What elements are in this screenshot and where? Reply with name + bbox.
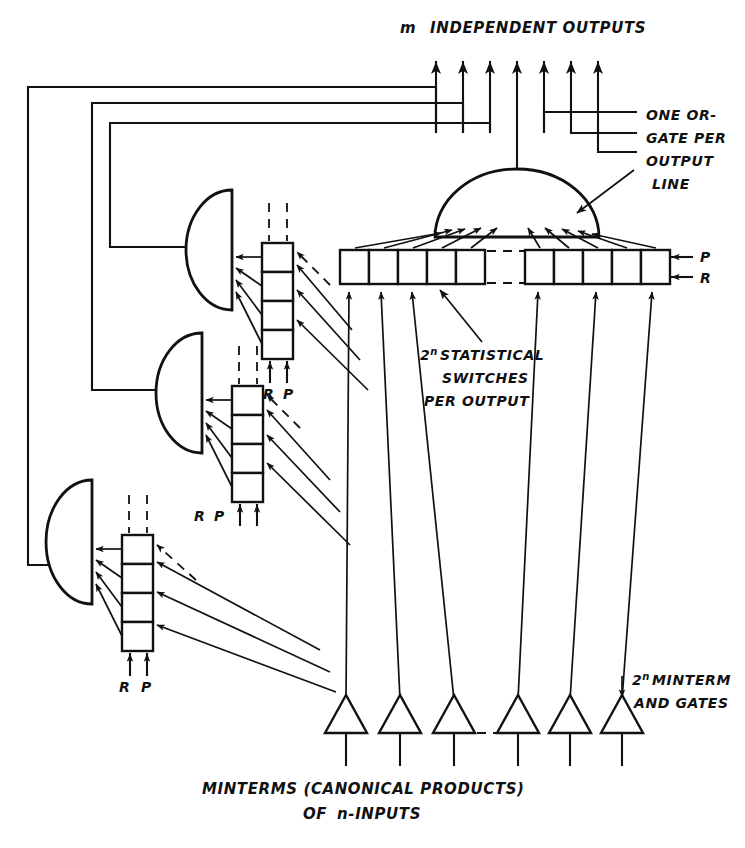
or-note-line-1: ONE OR-	[646, 107, 717, 123]
stack3-out-2	[96, 560, 122, 578]
switches-annotation-pointer	[440, 290, 482, 342]
caption-line-2-suffix: -INPUTS	[348, 805, 421, 823]
right-wire-2	[571, 132, 636, 133]
top-title-prefix: m	[400, 19, 416, 37]
minterm-note-sup: n	[642, 671, 650, 682]
switch-box-r1[interactable]	[525, 250, 554, 284]
stack3-in-3	[157, 592, 330, 672]
or-gate-annotation: ONE OR- GATE PER OUTPUT LINE	[646, 107, 726, 192]
caption-line-1: MINTERMS (CANONICAL PRODUCTS)	[202, 780, 525, 798]
bar-r-label: R	[700, 270, 711, 286]
and-gate-2[interactable]	[379, 695, 421, 733]
stack1-in-3	[297, 290, 360, 360]
caption-line-2-n: n	[337, 805, 348, 823]
minterm-wire-2	[381, 292, 400, 700]
right-wire-3	[598, 132, 636, 152]
switches-annotation: 2nSTATISTICAL SWITCHES PER OUTPUT	[420, 346, 544, 409]
stack2-in-4	[267, 463, 350, 545]
bottom-caption: MINTERMS (CANONICAL PRODUCTS) OF n-INPUT…	[202, 780, 525, 823]
stack3-box-2[interactable]	[122, 564, 153, 593]
stack3-r-label: R	[119, 679, 130, 695]
minterm-wire-5	[570, 292, 596, 700]
stack2-out-4	[206, 435, 232, 487]
or-gate-pointer-arrow	[577, 170, 634, 213]
stack1-p-label: P	[283, 386, 294, 402]
svg-text:2nMINTERM: 2nMINTERM	[632, 671, 731, 688]
or-gate-annotation-pointer	[577, 170, 634, 213]
minterm-wire-6	[622, 292, 652, 700]
and-gate-4[interactable]	[497, 695, 539, 733]
or-note-line-2: GATE PER	[646, 130, 726, 146]
or-note-line-4: LINE	[652, 176, 690, 192]
stack3-in-2	[157, 562, 320, 650]
stack2-out-3	[206, 423, 232, 458]
stack3-in-4	[157, 625, 336, 692]
minterm-wire-1	[346, 292, 349, 700]
or-gate-1-output-wire	[110, 123, 490, 247]
main-or-gate	[435, 169, 599, 237]
top-title-text: INDEPENDENT OUTPUTS	[430, 19, 646, 37]
main-switch-bar	[340, 250, 670, 284]
minterm-note-line-1: MINTERM	[652, 672, 731, 688]
switch-box-l3[interactable]	[398, 250, 427, 284]
and-gate-5[interactable]	[549, 695, 591, 733]
minterm-note-line-2: AND GATES	[633, 695, 729, 711]
switch-box-l2[interactable]	[369, 250, 398, 284]
stack3-box-3[interactable]	[122, 593, 153, 622]
minterm-annotation: 2nMINTERM AND GATES	[632, 671, 731, 711]
top-title: m INDEPENDENT OUTPUTS	[400, 19, 646, 37]
stack1-out-2	[236, 268, 262, 286]
stack1-box-4[interactable]	[262, 330, 293, 359]
bar-p-label: P	[700, 249, 711, 265]
and-gate-1[interactable]	[325, 695, 367, 733]
switch-box-r4[interactable]	[612, 250, 641, 284]
or-cluster-2: R P	[156, 333, 350, 545]
right-wire-1	[544, 112, 636, 132]
switch-box-r2[interactable]	[554, 250, 583, 284]
switch-box-r5[interactable]	[641, 250, 670, 284]
switch-box-l4[interactable]	[427, 250, 456, 284]
or-gate-1	[186, 190, 232, 310]
switches-note-line-3: PER OUTPUT	[424, 393, 530, 409]
switches-note-sup: n	[430, 346, 438, 357]
or-cluster-1: R P	[186, 190, 368, 402]
switches-note-line-1: STATISTICAL	[440, 347, 544, 363]
stack3-box-4[interactable]	[122, 622, 153, 651]
stack1-box-3[interactable]	[262, 301, 293, 330]
stack3-in-dashed	[157, 545, 196, 580]
stack3-box-1[interactable]	[122, 535, 153, 564]
figure-root: P R	[0, 0, 745, 848]
stack1-box-1[interactable]	[262, 243, 293, 272]
minterm-note-prefix: 2	[632, 672, 642, 688]
stack3-p-label: P	[141, 679, 152, 695]
or-fan-in-10	[592, 234, 656, 248]
or-fan-in-1	[355, 233, 441, 248]
caption-line-2-prefix: OF	[303, 805, 333, 823]
caption-line-2: OF n-INPUTS	[303, 805, 421, 823]
logic-diagram-canvas: P R	[0, 0, 745, 848]
stack3-out-4	[96, 584, 122, 636]
svg-text:m INDEPENDENT OUTPUTS: m INDEPENDENT OUTPUTS	[400, 19, 646, 37]
stack2-r-label: R	[194, 508, 205, 524]
switches-note-line-2: SWITCHES	[442, 370, 529, 386]
stack2-box-1[interactable]	[232, 386, 263, 415]
and-gate-3[interactable]	[433, 695, 475, 733]
stack1-out-4	[236, 292, 262, 344]
right-output-wires	[544, 112, 636, 152]
switch-box-l1[interactable]	[340, 250, 369, 284]
minterm-and-gate-row	[325, 695, 643, 765]
switch-box-r3[interactable]	[583, 250, 612, 284]
stack2-box-3[interactable]	[232, 444, 263, 473]
stack1-box-2[interactable]	[262, 272, 293, 301]
or-cluster-3: R P	[46, 480, 336, 695]
stack2-box-4[interactable]	[232, 473, 263, 502]
switches-note-prefix: 2	[420, 347, 430, 363]
stack3-out-3	[96, 572, 122, 607]
switches-pointer-arrow	[440, 290, 482, 342]
stack1-out-3	[236, 280, 262, 315]
stack2-p-label: P	[214, 508, 225, 524]
stack2-box-2[interactable]	[232, 415, 263, 444]
switch-box-l5[interactable]	[456, 250, 485, 284]
or-gate-2	[156, 333, 202, 453]
or-gate-3	[46, 480, 92, 604]
